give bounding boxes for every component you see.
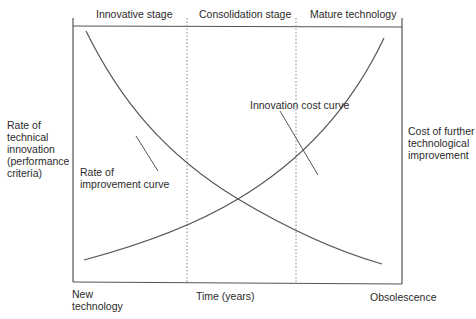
- cost-curve-label: Innovation cost curve: [250, 99, 349, 111]
- rate-curve-label: Rate of improvement curve: [80, 166, 169, 190]
- x-axis-title: Time (years): [196, 290, 255, 302]
- left-axis-label: Rate of technical innovation (performanc…: [7, 119, 69, 179]
- stage-label-innovative: Innovative stage: [96, 8, 172, 20]
- top-border: [73, 26, 402, 27]
- bottom-axis: [73, 282, 402, 284]
- diagram-canvas: [0, 0, 476, 319]
- rate-of-improvement-curve: [86, 31, 382, 264]
- x-end-label: Obsolescence: [370, 291, 437, 303]
- stage-label-consolidation: Consolidation stage: [199, 8, 291, 20]
- innovation-cost-curve: [84, 38, 384, 260]
- stage-label-mature: Mature technology: [310, 8, 396, 20]
- right-axis-label: Cost of further technological improvemen…: [408, 125, 475, 161]
- x-start-label: New technology: [72, 288, 123, 312]
